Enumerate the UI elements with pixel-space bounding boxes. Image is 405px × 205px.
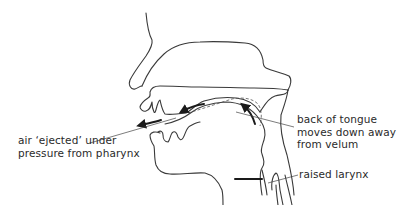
lower-lip-outline [150, 132, 223, 205]
label-raised-larynx: raised larynx [299, 168, 369, 181]
nose-outline [129, 13, 152, 89]
airflow-arrow-out [141, 120, 161, 125]
larynx-outline [262, 170, 292, 205]
hard-palate-outline [140, 86, 288, 114]
label-back-of-tongue: back of tongue moves down away from velu… [297, 113, 396, 151]
label-air-ejected: air ‘ejected’ under pressure from pharyn… [18, 134, 140, 159]
lower-teeth-outline [158, 122, 200, 142]
velum-outline [260, 90, 288, 112]
leader-back-of-tongue [236, 112, 294, 127]
nasal-cavity-outline [142, 42, 291, 90]
